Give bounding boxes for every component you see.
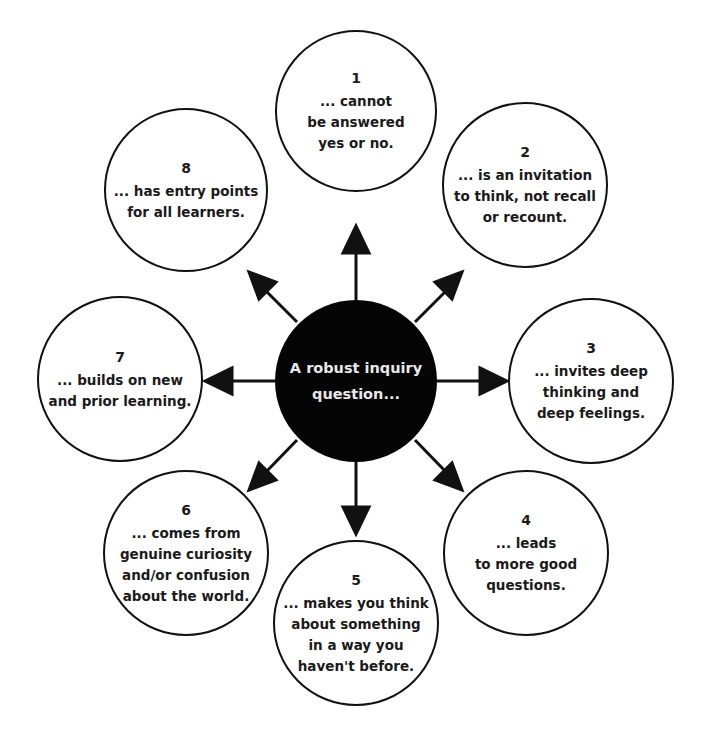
- center-node: A robust inquiry question...: [275, 300, 437, 462]
- node-text: ... comes from genuine curiosity and/or …: [120, 523, 252, 607]
- node-3: 3 ... invites deep thinking and deep fee…: [508, 298, 674, 464]
- node-text: ... has entry points for all learners.: [114, 181, 259, 223]
- node-number: 1: [351, 68, 361, 89]
- node-2: 2 ... is an invitation to think, not rec…: [442, 102, 608, 268]
- node-5: 5 ... makes you think about something in…: [273, 540, 439, 706]
- node-number: 2: [520, 142, 530, 163]
- arrow-head-icon: [343, 226, 369, 253]
- node-number: 4: [521, 510, 531, 531]
- node-6: 6 ... comes from genuine curiosity and/o…: [103, 470, 269, 636]
- node-number: 8: [181, 158, 191, 179]
- node-4: 4 ... leads to more good questions.: [443, 470, 609, 636]
- node-number: 3: [586, 338, 596, 359]
- arrow-head-icon: [435, 272, 462, 299]
- node-number: 7: [115, 347, 125, 368]
- arrow-head-icon: [480, 368, 507, 394]
- node-text: ... makes you think about something in a…: [283, 593, 428, 677]
- arrow-head-icon: [343, 507, 369, 534]
- node-text: ... invites deep thinking and deep feeli…: [534, 361, 648, 424]
- arrow-to-node-8: [265, 290, 297, 322]
- node-text: ... cannot be answered yes or no.: [307, 91, 404, 154]
- arrow-to-node-6: [265, 440, 297, 473]
- node-text: ... is an invitation to think, not recal…: [454, 165, 596, 228]
- node-1: 1 ... cannot be answered yes or no.: [275, 30, 437, 192]
- arrow-head-icon: [205, 368, 232, 394]
- node-text: ... leads to more good questions.: [475, 533, 577, 596]
- arrow-to-node-4: [415, 440, 447, 473]
- node-text: ... builds on new and prior learning.: [49, 370, 192, 412]
- node-7: 7 ... builds on new and prior learning.: [37, 296, 203, 462]
- node-number: 5: [351, 570, 361, 591]
- arrow-head-icon: [435, 463, 462, 490]
- arrow-to-node-2: [415, 290, 447, 322]
- node-8: 8 ... has entry points for all learners.: [104, 108, 268, 272]
- node-number: 6: [181, 500, 191, 521]
